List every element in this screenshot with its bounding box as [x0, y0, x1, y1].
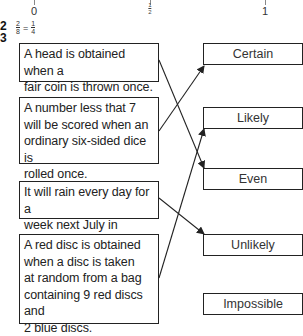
- event-box-coin: A head is obtained when a fair coin is t…: [19, 43, 159, 82]
- event-line: A number less that 7: [24, 100, 154, 117]
- event-line: fair coin is thrown once.: [24, 79, 154, 96]
- event-line: will be scored when an: [24, 117, 154, 134]
- question-number-3: 3: [0, 31, 7, 45]
- equals-sign: =: [23, 23, 28, 33]
- arrow-dice-to-certain: [159, 66, 204, 131]
- half-denominator: 2: [148, 8, 151, 15]
- likelihood-likely: Likely: [203, 107, 303, 129]
- event-box-dice: A number less that 7 will be scored when…: [19, 97, 159, 164]
- event-line: ordinary six-sided dice is: [24, 133, 154, 166]
- half-numerator: 1: [148, 2, 151, 8]
- fraction-lhs: 2 8: [16, 20, 20, 35]
- event-line: at random from a bag: [24, 270, 154, 287]
- event-line: A head is obtained when a: [24, 46, 154, 79]
- likelihood-impossible: Impossible: [203, 293, 303, 315]
- event-line: 2 blue discs.: [24, 320, 154, 336]
- likelihood-certain: Certain: [203, 43, 303, 65]
- number-line-label-half: 1 2: [148, 2, 151, 15]
- fraction-rhs: 1 4: [31, 20, 35, 35]
- lhs-denominator: 8: [16, 27, 20, 35]
- likelihood-unlikely: Unlikely: [203, 234, 303, 256]
- event-line: A red disc is obtained: [24, 237, 154, 254]
- event-box-rain: It will rain every day for a week next J…: [19, 181, 159, 219]
- rhs-denominator: 4: [31, 27, 35, 35]
- number-line-label-0: 0: [31, 5, 37, 17]
- event-line: It will rain every day for a: [24, 184, 154, 217]
- rhs-numerator: 1: [31, 20, 35, 27]
- arrow-coin-to-even: [159, 60, 204, 168]
- question-2-answer: 2 8 = 1 4: [16, 20, 35, 35]
- number-line-label-1: 1: [262, 5, 268, 17]
- event-line: containing 9 red discs and: [24, 287, 154, 320]
- likelihood-even: Even: [203, 168, 303, 190]
- arrow-disc-to-likely: [159, 129, 204, 278]
- event-line: when a disc is taken: [24, 254, 154, 271]
- lhs-numerator: 2: [16, 20, 20, 27]
- event-box-disc: A red disc is obtained when a disc is ta…: [19, 234, 159, 324]
- arrow-rain-to-unlikely: [159, 198, 204, 234]
